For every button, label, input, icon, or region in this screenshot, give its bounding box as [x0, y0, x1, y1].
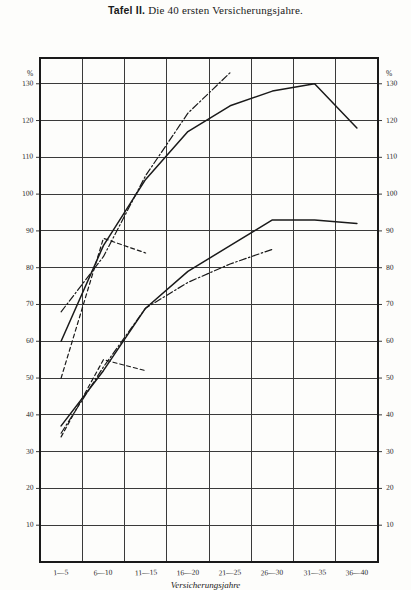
y-axis-left-unit: % — [27, 69, 33, 78]
y-tick-left-30: 30 — [26, 446, 34, 456]
y-tick-left-120: 120 — [22, 115, 34, 125]
chart-area: %130120110100908070605040302010 %1301201… — [0, 0, 411, 590]
y-tick-right-30: 30 — [386, 446, 394, 456]
y-tick-right-100: 100 — [386, 188, 398, 198]
y-tick-left-40: 40 — [26, 409, 34, 419]
y-tick-right-60: 60 — [386, 336, 394, 346]
y-tick-right-90: 90 — [386, 225, 394, 235]
y-tick-left-10: 10 — [26, 520, 34, 530]
line-chart — [0, 0, 411, 590]
y-tick-left-100: 100 — [22, 188, 34, 198]
series-line-upper-dashdot — [61, 73, 230, 312]
y-tick-right-120: 120 — [386, 115, 398, 125]
y-tick-right-110: 110 — [386, 152, 398, 162]
y-tick-left-90: 90 — [26, 225, 34, 235]
y-tick-left-60: 60 — [26, 336, 34, 346]
y-tick-left-80: 80 — [26, 262, 34, 272]
x-axis-title: Versicherungsjahre — [0, 580, 411, 590]
y-tick-right-70: 70 — [386, 299, 394, 309]
y-tick-left-70: 70 — [26, 299, 34, 309]
grid-layer — [36, 58, 382, 562]
y-tick-right-130: 130 — [386, 78, 398, 88]
y-tick-left-50: 50 — [26, 373, 34, 383]
y-tick-right-20: 20 — [386, 483, 394, 493]
series-line-upper-dashed — [61, 238, 146, 378]
chart-page: Tafel II. Die 40 ersten Versicherungsjah… — [0, 0, 411, 590]
y-tick-right-50: 50 — [386, 373, 394, 383]
y-tick-right-10: 10 — [386, 520, 394, 530]
y-tick-left-110: 110 — [22, 152, 34, 162]
y-axis-right-unit: % — [386, 69, 392, 78]
y-tick-left-130: 130 — [22, 78, 34, 88]
y-tick-right-40: 40 — [386, 409, 394, 419]
y-tick-left-20: 20 — [26, 483, 34, 493]
y-tick-right-80: 80 — [386, 262, 394, 272]
